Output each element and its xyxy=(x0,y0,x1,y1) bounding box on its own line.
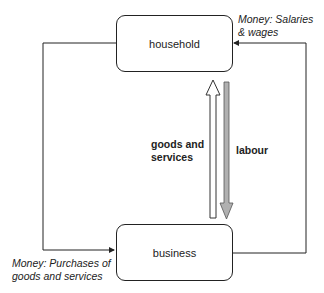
purchases-label: Money: Purchases of goods and services xyxy=(12,257,111,283)
circular-flow-diagram: household business Money: Salaries & wag… xyxy=(0,0,324,293)
household-node: household xyxy=(116,15,233,72)
business-label: business xyxy=(153,247,196,259)
labour-arrow-icon xyxy=(220,82,233,219)
business-node: business xyxy=(116,224,233,281)
salaries-label: Money: Salaries & wages xyxy=(238,13,313,39)
labour-label: labour xyxy=(236,144,268,157)
household-label: household xyxy=(149,38,200,50)
goods-arrow-icon xyxy=(206,80,220,218)
purchases-flow-line xyxy=(43,43,116,250)
goods-services-label: goods and services xyxy=(151,138,204,164)
